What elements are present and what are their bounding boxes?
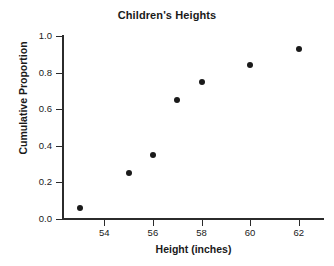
x-tick-mark (299, 220, 300, 226)
y-tick-mark (56, 73, 62, 74)
x-tick-mark (104, 220, 105, 226)
x-axis-label: Height (inches) (63, 243, 324, 255)
y-tick-mark (56, 109, 62, 110)
y-tick-mark (56, 36, 62, 37)
chart-title: Children's Heights (0, 9, 334, 21)
x-tick-mark (153, 220, 154, 226)
y-tick-mark (56, 182, 62, 183)
y-tick-label: 0.8 (26, 67, 52, 78)
x-tick-label: 54 (89, 227, 119, 238)
y-tick-label: 0.0 (26, 213, 52, 224)
y-tick-mark (56, 219, 62, 220)
y-tick-label: 0.2 (26, 176, 52, 187)
data-point (126, 170, 132, 176)
x-tick-mark (250, 220, 251, 226)
data-point (199, 79, 205, 85)
y-tick-label: 0.6 (26, 103, 52, 114)
y-axis-label: Cumulative Proportion (17, 13, 29, 183)
x-tick-label: 60 (235, 227, 265, 238)
x-tick-label: 56 (138, 227, 168, 238)
y-tick-label: 0.4 (26, 140, 52, 151)
chart-container: Children's Heights 0.00.20.40.60.81.0 54… (0, 0, 334, 266)
x-tick-label: 58 (187, 227, 217, 238)
x-tick-label: 62 (284, 227, 314, 238)
y-tick-mark (56, 146, 62, 147)
plot-area (63, 36, 323, 219)
y-tick-label: 1.0 (26, 30, 52, 41)
data-point (77, 205, 83, 211)
data-point (150, 152, 156, 158)
data-point (296, 46, 302, 52)
x-tick-mark (202, 220, 203, 226)
